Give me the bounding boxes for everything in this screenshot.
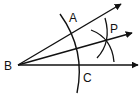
label-c: C: [83, 71, 92, 85]
ray-bp: [18, 33, 132, 65]
label-b: B: [4, 59, 12, 73]
angle-bisector-diagram: A P C B: [0, 0, 140, 94]
label-p: P: [110, 22, 118, 36]
arc-from-c: [97, 18, 107, 58]
label-a: A: [69, 11, 77, 25]
large-arc-centered-b: [60, 14, 79, 93]
